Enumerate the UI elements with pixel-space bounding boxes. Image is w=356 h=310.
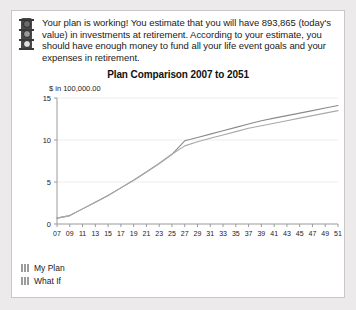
x-tick-label: 45 [296, 230, 304, 237]
x-tick-label: 41 [270, 230, 278, 237]
legend-label-my-plan: My Plan [34, 263, 65, 273]
x-tick-label: 43 [283, 230, 291, 237]
legend-swatch-my-plan [21, 264, 29, 272]
x-tick-label: 37 [245, 230, 253, 237]
legend-item: My Plan [21, 262, 344, 273]
x-tick-label: 17 [117, 230, 125, 237]
x-tick-label: 47 [309, 230, 317, 237]
series-line-what-if [57, 111, 338, 219]
status-banner: Your plan is working! You estimate that … [12, 11, 344, 63]
x-tick-label: 27 [181, 230, 189, 237]
y-tick-label: 0 [47, 220, 51, 229]
x-tick-label: 13 [91, 230, 99, 237]
plan-comparison-panel: Your plan is working! You estimate that … [11, 10, 345, 298]
y-tick-label: 5 [47, 178, 51, 187]
x-tick-label: 33 [219, 230, 227, 237]
x-tick-label: 21 [143, 230, 151, 237]
x-tick-label: 49 [321, 230, 329, 237]
line-chart-svg: 0510150709111315171921232527293133353739… [12, 84, 346, 256]
y-tick-label: 15 [43, 94, 51, 103]
x-tick-label: 19 [130, 230, 138, 237]
x-tick-label: 09 [66, 230, 74, 237]
x-tick-label: 07 [53, 230, 61, 237]
x-tick-label: 31 [206, 230, 214, 237]
series-line-my-plan [57, 106, 338, 219]
status-message: Your plan is working! You estimate that … [42, 17, 337, 63]
x-tick-label: 29 [194, 230, 202, 237]
x-tick-label: 51 [334, 230, 342, 237]
x-tick-label: 35 [232, 230, 240, 237]
chart-area: $ in 100,000.00 051015070911131517192123… [12, 84, 344, 256]
chart-title: Plan Comparison 2007 to 2051 [12, 69, 344, 80]
x-tick-label: 23 [155, 230, 163, 237]
y-tick-label: 10 [43, 136, 51, 145]
chart-legend: My Plan What If [12, 262, 344, 286]
traffic-light-icon [19, 18, 35, 52]
x-tick-label: 15 [104, 230, 112, 237]
x-tick-label: 39 [257, 230, 265, 237]
x-tick-label: 25 [168, 230, 176, 237]
x-tick-label: 11 [79, 230, 86, 237]
legend-swatch-what-if [21, 277, 29, 285]
legend-label-what-if: What If [34, 276, 61, 286]
legend-item: What If [21, 275, 344, 286]
